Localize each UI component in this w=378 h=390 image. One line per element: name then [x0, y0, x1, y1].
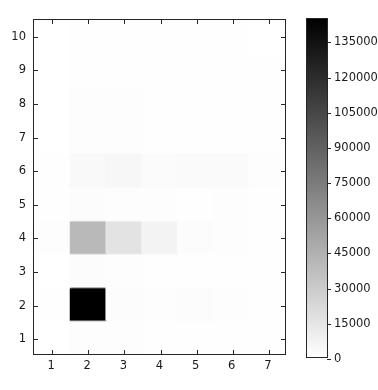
colorbar-tick-mark	[327, 289, 331, 290]
xtick-mark-top	[197, 20, 198, 24]
ytick-mark	[34, 272, 38, 273]
ytick-mark	[34, 138, 38, 139]
xtick-label: 1	[47, 359, 54, 372]
ytick-label: 6	[19, 164, 26, 177]
xtick-label: 2	[84, 359, 91, 372]
xtick-label: 3	[120, 359, 127, 372]
colorbar-tick-label: 120000	[334, 70, 378, 83]
xtick-label: 7	[264, 359, 271, 372]
colorbar-tick-mark	[327, 359, 331, 360]
colorbar-tick-label: 90000	[334, 140, 371, 153]
xtick-mark	[124, 350, 125, 354]
ytick-mark-right	[281, 138, 285, 139]
colorbar-tick-label: 30000	[334, 281, 371, 294]
colorbar-tick-mark	[327, 148, 331, 149]
ytick-mark-right	[281, 171, 285, 172]
ytick-mark	[34, 205, 38, 206]
ytick-mark-right	[281, 37, 285, 38]
ytick-label: 8	[19, 97, 26, 110]
ytick-mark-right	[281, 272, 285, 273]
ytick-mark	[34, 37, 38, 38]
ytick-label: 3	[19, 265, 26, 278]
ytick-mark-right	[281, 238, 285, 239]
xtick-label: 6	[228, 359, 235, 372]
xtick-label: 5	[192, 359, 199, 372]
xtick-mark-top	[124, 20, 125, 24]
ytick-label: 4	[19, 231, 26, 244]
colorbar-tick-mark	[327, 218, 331, 219]
xtick-mark	[161, 350, 162, 354]
xtick-mark	[269, 350, 270, 354]
ytick-label: 1	[19, 332, 26, 345]
xtick-mark-top	[233, 20, 234, 24]
xtick-mark-top	[52, 20, 53, 24]
ytick-label: 10	[11, 29, 26, 42]
xtick-mark	[197, 350, 198, 354]
ytick-mark	[34, 171, 38, 172]
ytick-mark	[34, 238, 38, 239]
ytick-mark	[34, 104, 38, 105]
ytick-mark-right	[281, 339, 285, 340]
ytick-label: 5	[19, 197, 26, 210]
colorbar-tick-label: 135000	[334, 35, 378, 48]
ytick-mark-right	[281, 104, 285, 105]
colorbar	[306, 18, 328, 358]
ytick-mark	[34, 70, 38, 71]
heatmap-image	[34, 20, 285, 354]
ytick-mark	[34, 339, 38, 340]
heatmap-axes	[33, 19, 286, 355]
colorbar-tick-label: 15000	[334, 316, 371, 329]
colorbar-tick-mark	[327, 324, 331, 325]
ytick-mark	[34, 306, 38, 307]
ytick-mark-right	[281, 205, 285, 206]
xtick-mark-top	[88, 20, 89, 24]
xtick-mark	[88, 350, 89, 354]
ytick-mark-right	[281, 306, 285, 307]
xtick-mark-top	[161, 20, 162, 24]
colorbar-tick-label: 75000	[334, 176, 371, 189]
colorbar-tick-label: 0	[334, 352, 341, 365]
xtick-mark	[233, 350, 234, 354]
xtick-label: 4	[156, 359, 163, 372]
xtick-mark-top	[269, 20, 270, 24]
colorbar-tick-label: 45000	[334, 246, 371, 259]
ytick-mark-right	[281, 70, 285, 71]
ytick-label: 9	[19, 63, 26, 76]
colorbar-tick-mark	[327, 78, 331, 79]
colorbar-tick-label: 60000	[334, 211, 371, 224]
xtick-mark	[52, 350, 53, 354]
colorbar-tick-mark	[327, 113, 331, 114]
ytick-label: 7	[19, 130, 26, 143]
colorbar-tick-mark	[327, 42, 331, 43]
colorbar-tick-label: 105000	[334, 105, 378, 118]
colorbar-tick-mark	[327, 253, 331, 254]
ytick-label: 2	[19, 298, 26, 311]
colorbar-tick-mark	[327, 183, 331, 184]
